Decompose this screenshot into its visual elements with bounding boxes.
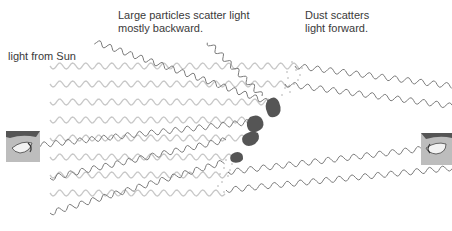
dust-particle [287, 77, 288, 78]
dust-particle [221, 181, 222, 182]
dust-particle [295, 69, 296, 70]
observer-right-eye [421, 133, 452, 165]
large-particle-1 [266, 97, 281, 117]
large-particles-label-line1: Large particles scatter light [118, 9, 249, 22]
incident-light-waves [50, 63, 300, 196]
dust-particle [284, 87, 285, 88]
large-particle-3 [242, 131, 259, 146]
dust-particle [227, 175, 228, 176]
dust-particle [231, 163, 232, 164]
dust-particle [301, 67, 302, 68]
diagram-artwork [0, 0, 452, 231]
large-particle-4 [230, 152, 243, 163]
dust-particle [299, 74, 300, 75]
light-from-sun-label: light from Sun [8, 50, 76, 63]
dust-particle [223, 191, 224, 192]
dust-label-line2: light forward. [305, 22, 368, 35]
incident-wave [50, 190, 225, 196]
dust-particle [225, 159, 226, 160]
dust-label-line1: Dust scatters [305, 9, 369, 22]
incident-wave [50, 117, 255, 123]
incident-wave [50, 63, 300, 69]
large-particle-2 [247, 115, 264, 132]
backscattered-wave-to-observer [40, 120, 250, 147]
observer-left-eye [6, 131, 40, 162]
forward-scattered-wave-to-observer [228, 147, 421, 175]
forward-scattered-wave [285, 83, 452, 108]
incoming-diagonal-wave [50, 161, 225, 215]
dust-particle [229, 169, 230, 170]
dust-particle [217, 185, 218, 186]
dust-particle [286, 71, 287, 72]
dust-particle [289, 91, 290, 92]
incident-wave [50, 99, 270, 105]
dust-particle [297, 79, 298, 80]
large-particles [230, 97, 280, 162]
backscattered-wave [94, 41, 268, 102]
scattering-diagram: light from Sun Large particles scatter l… [0, 0, 452, 231]
dust-particle [291, 61, 292, 62]
dust-particle [219, 173, 220, 174]
dust-particle [223, 167, 224, 168]
large-particles-label-line2: mostly backward. [118, 22, 203, 35]
dust-particle [293, 83, 294, 84]
forward-scattered-wave [226, 166, 452, 192]
forward-scattered-wave [295, 65, 452, 89]
dust-particle [281, 94, 282, 95]
